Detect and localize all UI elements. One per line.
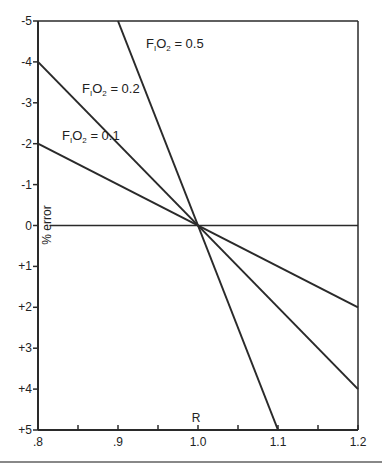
- bottom-divider: [0, 461, 382, 463]
- labels: R % error -5-4-3-2-10+1+2+3+4+5.8.91.01.…: [18, 14, 366, 449]
- y-tick-label: -5: [21, 14, 32, 28]
- series-label-3: FIO2 = 0.5: [146, 36, 204, 53]
- series-label-1: FIO2 = 0.1: [62, 128, 120, 145]
- y-tick-label: -2: [21, 137, 32, 151]
- x-tick-label: 1.1: [270, 435, 287, 449]
- y-tick-label: +1: [18, 259, 32, 273]
- chart: R % error -5-4-3-2-10+1+2+3+4+5.8.91.01.…: [0, 0, 382, 468]
- y-tick-label: +3: [18, 341, 32, 355]
- y-tick-label: +2: [18, 300, 32, 314]
- y-tick-label: -4: [21, 55, 32, 69]
- y-axis-title: % error: [40, 205, 54, 244]
- x-tick-label: 1.0: [190, 435, 207, 449]
- x-tick-label: 1.2: [350, 435, 367, 449]
- x-axis-title: R: [192, 411, 201, 425]
- y-tick-label: +4: [18, 382, 32, 396]
- series-label-2: FIO2 = 0.2: [82, 81, 140, 98]
- y-tick-label: -3: [21, 96, 32, 110]
- y-tick-label: -1: [21, 178, 32, 192]
- x-tick-label: .9: [113, 435, 123, 449]
- x-tick-label: .8: [33, 435, 43, 449]
- y-tick-label: 0: [25, 219, 32, 233]
- y-tick-label: +5: [18, 423, 32, 437]
